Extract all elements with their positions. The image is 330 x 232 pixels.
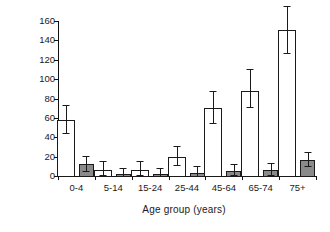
y-axis-tick-label: 120 (39, 54, 55, 65)
x-axis-group-label: 45-64 (212, 182, 236, 193)
error-bar-filled (234, 164, 235, 175)
error-bar-filled (160, 168, 161, 176)
x-axis-group-label: 15-24 (138, 182, 162, 193)
x-axis-group-label: 25-44 (175, 182, 199, 193)
error-bar-cap (210, 91, 217, 92)
y-axis-tick-label: 80 (44, 93, 55, 104)
error-bar-cap (267, 175, 274, 176)
error-bar-cap (284, 53, 291, 54)
error-bar-cap (157, 168, 164, 169)
error-bar-cap (83, 171, 90, 172)
error-bar-cap (247, 107, 254, 108)
error-bar-cap (120, 176, 127, 177)
error-bar-cap (83, 156, 90, 157)
error-bar-cap (210, 123, 217, 124)
error-bar-cap (304, 152, 311, 153)
error-bar-cap (62, 133, 69, 134)
error-bar-cap (194, 176, 201, 177)
error-bar-filled (308, 152, 309, 167)
chart-figure: Rate per 10000 0204060801001201401600-45… (0, 0, 330, 232)
x-axis-group-label: 65-74 (249, 182, 273, 193)
y-axis-tick-label: 40 (44, 131, 55, 142)
error-bar-open (66, 105, 67, 133)
error-bar-filled (197, 166, 198, 176)
y-axis-title: Rate per 10000 (0, 0, 20, 232)
x-axis-tick-mark (316, 176, 317, 180)
error-bar-open (103, 161, 104, 176)
error-bar-cap (99, 175, 106, 176)
x-axis-group-label: 75+ (290, 182, 306, 193)
error-bar-open (177, 146, 178, 165)
x-axis-group-label: 5-14 (104, 182, 123, 193)
error-bar-cap (136, 175, 143, 176)
error-bar-cap (173, 165, 180, 166)
y-axis-tick-label: 160 (39, 15, 55, 26)
y-axis-tick-label: 60 (44, 112, 55, 123)
error-bar-cap (230, 175, 237, 176)
error-bar-cap (173, 146, 180, 147)
error-bar-cap (304, 166, 311, 167)
error-bar-open (287, 6, 288, 53)
y-axis-tick-label: 100 (39, 73, 55, 84)
y-axis-tick-label: 0 (50, 170, 55, 181)
error-bar-cap (194, 166, 201, 167)
error-bar-cap (136, 161, 143, 162)
error-bar-cap (99, 161, 106, 162)
y-axis-tick-label: 20 (44, 151, 55, 162)
error-bar-cap (120, 168, 127, 169)
y-axis-tick-label: 140 (39, 34, 55, 45)
error-bar-filled (123, 168, 124, 176)
error-bar-cap (284, 6, 291, 7)
error-bar-open (213, 91, 214, 123)
plot-area: 0204060801001201401600-45-1415-2425-4445… (58, 21, 316, 176)
x-axis-group-label: 0-4 (70, 182, 84, 193)
error-bar-cap (62, 105, 69, 106)
error-bar-cap (247, 69, 254, 70)
error-bar-cap (267, 163, 274, 164)
error-bar-open (140, 161, 141, 176)
error-bar-filled (86, 156, 87, 172)
x-axis-title: Age group (years) (38, 204, 330, 215)
error-bar-cap (230, 164, 237, 165)
error-bar-filled (271, 163, 272, 175)
error-bar-open (250, 69, 251, 107)
error-bar-cap (157, 176, 164, 177)
x-axis-tick-mark (58, 176, 59, 180)
